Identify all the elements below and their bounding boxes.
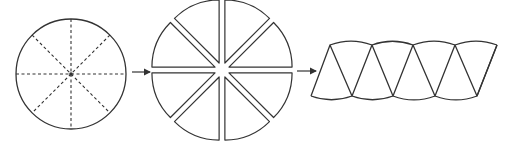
circle-area-diagram xyxy=(0,0,512,142)
rearranged-strip xyxy=(311,41,497,100)
separated-sectors xyxy=(152,0,292,140)
diagram-canvas xyxy=(0,0,512,142)
divided-circle xyxy=(16,19,126,129)
